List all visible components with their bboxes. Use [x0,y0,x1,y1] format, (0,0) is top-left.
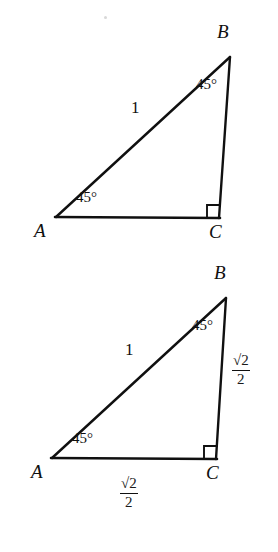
angle-label-b-top: 45° [196,77,217,92]
side-label-bc-bottom-fraction: √2 2 [232,353,250,388]
triangle-figure-stack: A B C 45° 45° 1 A B C 45° 45° 1 √2 2 [0,0,278,552]
side-label-ab-bottom: 1 [125,341,134,358]
side-bc-bottom [216,298,226,459]
angle-label-a-bottom: 45° [72,431,93,446]
triangle-outline-bottom [0,258,278,552]
vertex-label-a-top: A [34,221,46,240]
side-bc-top [219,57,230,218]
angle-label-a-top: 45° [76,190,97,205]
angle-label-b-bottom: 45° [192,318,213,333]
side-label-ac-denominator: 2 [120,494,138,511]
side-ac-top [55,217,220,218]
side-ac-bottom [51,458,217,459]
vertex-label-b-bottom: B [214,263,226,282]
side-label-ab-top: 1 [131,99,140,116]
side-label-bc-denominator: 2 [232,371,250,388]
figure-triangle-legs-labeled: A B C 45° 45° 1 √2 2 √2 2 [0,258,278,552]
figure-triangle-unit-hypotenuse: A B C 45° 45° 1 [0,0,278,258]
vertex-label-b-top: B [217,22,229,41]
vertex-label-a-bottom: A [31,462,43,481]
side-label-ac-numerator: √2 [120,476,138,494]
vertex-label-c-top: C [209,222,222,241]
side-label-ac-bottom-fraction: √2 2 [120,476,138,511]
vertex-label-c-bottom: C [206,463,219,482]
side-label-bc-numerator: √2 [232,353,250,371]
